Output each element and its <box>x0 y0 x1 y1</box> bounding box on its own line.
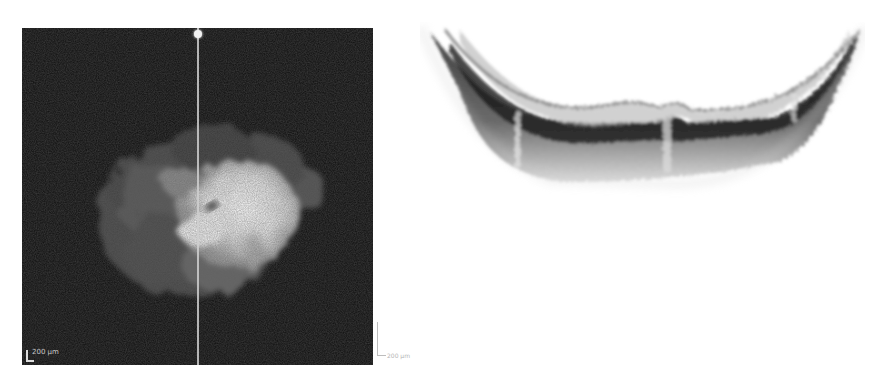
scan-position-line <box>197 28 199 365</box>
scale-bar-vertical <box>26 350 28 360</box>
scan-direction-marker <box>194 30 202 38</box>
scale-bar-left: 200 µm <box>26 350 62 362</box>
scale-bar-label: 200 µm <box>387 352 410 359</box>
oct-bscan-panel <box>420 22 865 212</box>
scale-bar-vertical <box>377 322 378 356</box>
enface-image-panel: 200 µm <box>22 28 373 365</box>
scale-bar-label: 200 µm <box>32 348 59 356</box>
scale-bar-right: 200 µm <box>377 322 417 360</box>
scale-bar-horizontal <box>377 355 386 356</box>
scale-bar-horizontal <box>26 360 34 362</box>
oct-bscan-image <box>420 22 865 212</box>
